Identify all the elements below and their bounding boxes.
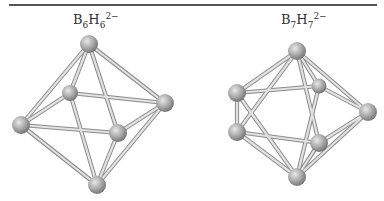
boron-atom — [12, 116, 30, 134]
molecule-diagrams — [0, 0, 384, 201]
octahedron-b6h6 — [12, 35, 174, 194]
boron-atom — [359, 103, 377, 121]
boron-atom — [109, 124, 127, 142]
boron-atom — [288, 42, 306, 60]
boron-atom — [312, 79, 327, 94]
boron-atom — [62, 85, 78, 101]
boron-atom — [228, 84, 246, 102]
boron-atom — [288, 168, 306, 186]
boron-atom — [228, 123, 246, 141]
boron-atom — [310, 134, 328, 152]
boron-atom — [88, 176, 106, 194]
boron-atom — [80, 35, 98, 53]
boron-atom — [156, 94, 174, 112]
bipyramid-b7h7 — [228, 42, 377, 186]
